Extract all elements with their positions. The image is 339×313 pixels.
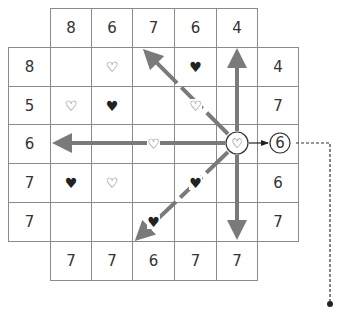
heart-outline-icon: ♡ <box>65 99 78 113</box>
heart-filled-icon: ♥ <box>189 176 202 190</box>
heart-outline-icon: ♡ <box>147 137 160 151</box>
heart-outline-icon: ♡ <box>106 60 119 74</box>
heart-outline-icon: ♡ <box>189 99 202 113</box>
dotted-leader <box>296 143 330 303</box>
leader-endpoint <box>327 301 333 307</box>
heart-filled-icon: ♥ <box>147 215 160 229</box>
origin-heart-icon: ♡ <box>227 133 247 153</box>
highlighted-clue: 6 <box>270 133 290 153</box>
heart-filled-icon: ♥ <box>106 99 119 113</box>
heart-filled-icon: ♥ <box>189 60 202 74</box>
heart-outline-icon: ♡ <box>106 176 119 190</box>
arrows-overlay <box>0 0 339 313</box>
heart-filled-icon: ♥ <box>65 176 78 190</box>
